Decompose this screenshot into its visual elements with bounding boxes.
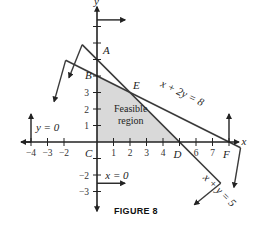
point-label-c: C xyxy=(85,147,93,159)
point-label-f: F xyxy=(222,148,230,160)
label-x-eq-0: x = 0 xyxy=(104,169,129,181)
x-tick-label: 1 xyxy=(111,148,116,158)
y-tick-label: −2 xyxy=(79,171,89,181)
x-tick-label: 2 xyxy=(128,148,133,158)
line-x-plus-y-normal xyxy=(69,45,82,78)
point-label-b: B xyxy=(85,69,92,81)
point-label-a: A xyxy=(102,44,110,56)
x-tick-label: −2 xyxy=(59,148,69,158)
x-tick-label: −3 xyxy=(42,148,52,158)
x-tick-label: 6 xyxy=(194,148,199,158)
region-label-line2: region xyxy=(118,115,144,126)
y-tick-label: 3 xyxy=(84,88,89,98)
label-x-plus-2y-eq-8: x + 2y = 8 xyxy=(158,76,207,108)
x-axis-label: x xyxy=(240,135,246,147)
y-tick-label: 1 xyxy=(84,121,89,131)
y-tick-label: −3 xyxy=(79,187,89,197)
y-axis-label: y xyxy=(93,0,99,7)
label-x-plus-y-eq-5: x + y = 5 xyxy=(200,171,239,210)
y-tick-label: 2 xyxy=(84,105,89,115)
point-label-d: D xyxy=(173,148,182,160)
x-tick-label: 4 xyxy=(161,148,166,158)
x-tick-label: 7 xyxy=(210,148,215,158)
x-tick-label: 3 xyxy=(144,148,149,158)
line-x-plus-2y-normal-right xyxy=(234,148,241,188)
label-y-eq-0: y = 0 xyxy=(35,121,60,133)
point-label-e: E xyxy=(132,79,140,91)
region-label-line1: Feasible xyxy=(114,103,148,114)
x-tick-label: −4 xyxy=(26,148,36,158)
line-x-plus-2y-normal xyxy=(54,60,66,101)
figure-caption: FIGURE 8 xyxy=(114,206,158,216)
feasible-region-diagram: −4−3−2123467123−2−3xyABCDEFx + 2y = 8x +… xyxy=(0,0,263,227)
